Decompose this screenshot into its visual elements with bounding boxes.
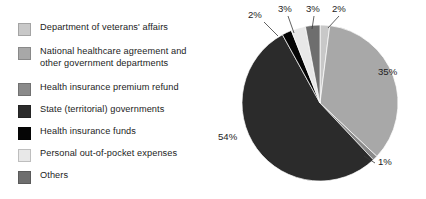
leader-line-1: [264, 22, 278, 36]
legend-item[interactable]: Personal out-of-pocket expenses: [18, 148, 177, 162]
callout-label-35: 35%: [378, 66, 398, 77]
callout-label-veterans-2: 2%: [248, 9, 262, 20]
legend-item-label: Personal out-of-pocket expenses: [40, 148, 177, 160]
pie-chart-area: 2%3%3%2%35%1%54%: [218, 0, 426, 199]
callout-label-54: 54%: [218, 131, 238, 142]
legend-color-swatch: [18, 127, 31, 140]
pie-chart-figure: Department of veterans' affairsNational …: [0, 0, 426, 199]
legend-color-swatch: [18, 47, 31, 60]
pie-slices: [242, 25, 398, 181]
legend-item[interactable]: Health insurance premium refund: [18, 82, 179, 96]
legend-color-swatch: [18, 149, 31, 162]
callout-label-1: 1%: [378, 156, 392, 167]
legend-item-label: Department of veterans' affairs: [40, 22, 168, 34]
legend-item-label: Others: [40, 170, 68, 182]
pie-chart-svg: 2%3%3%2%35%1%54%: [218, 0, 426, 199]
legend-item[interactable]: Department of veterans' affairs: [18, 22, 168, 36]
legend-item-label: Health insurance premium refund: [40, 82, 179, 94]
legend-item[interactable]: Health insurance funds: [18, 126, 136, 140]
legend-item-label: State (territorial) governments: [40, 104, 164, 116]
callout-label-3b: 3%: [306, 3, 320, 14]
callout-label-2b: 2%: [332, 3, 346, 14]
legend-color-swatch: [18, 105, 31, 118]
callout-label-3a: 3%: [278, 3, 292, 14]
legend-color-swatch: [18, 171, 31, 184]
legend-item[interactable]: Others: [18, 170, 68, 184]
legend-item-label: National healthcare agreement and other …: [40, 46, 187, 69]
legend-color-swatch: [18, 23, 31, 36]
legend-item-label: Health insurance funds: [40, 126, 136, 138]
chart-legend: Department of veterans' affairsNational …: [0, 0, 218, 199]
legend-color-swatch: [18, 83, 31, 96]
legend-item[interactable]: State (territorial) governments: [18, 104, 164, 118]
legend-item[interactable]: National healthcare agreement and other …: [18, 46, 187, 69]
